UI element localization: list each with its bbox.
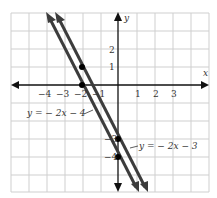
x-axis-label: x bbox=[203, 69, 208, 78]
x-tick: 1 bbox=[135, 90, 141, 99]
x-axis-arrow-right bbox=[201, 81, 209, 89]
y-axis-label: y bbox=[124, 14, 129, 23]
y-tick: −3 bbox=[104, 135, 117, 144]
x-axis-arrow-left bbox=[11, 81, 19, 89]
x-tick: 2 bbox=[153, 90, 159, 99]
y-tick: 2 bbox=[109, 46, 115, 55]
y-tick: −4 bbox=[104, 153, 117, 162]
x-tick: −1 bbox=[92, 90, 105, 99]
grid bbox=[11, 13, 209, 192]
graph bbox=[0, 0, 217, 198]
x-tick: −3 bbox=[56, 90, 69, 99]
point-neg2-0 bbox=[79, 82, 85, 88]
y-axis-arrow-down bbox=[114, 183, 122, 192]
x-tick: −4 bbox=[38, 90, 51, 99]
y-tick: 1 bbox=[109, 63, 115, 72]
point-neg2-1 bbox=[79, 64, 85, 70]
line-y-neg2x-minus4 bbox=[49, 17, 136, 187]
x-tick: 3 bbox=[171, 90, 177, 99]
equation-label-2: y = − 2x − 3 bbox=[139, 142, 198, 151]
arrow-head-2-top bbox=[55, 12, 65, 23]
equation-label-1: y = − 2x − 4 bbox=[27, 109, 86, 118]
x-tick: −2 bbox=[74, 90, 87, 99]
